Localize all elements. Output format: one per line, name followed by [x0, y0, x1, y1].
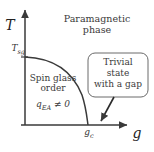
phase-diagram-figure: T g Tsg gc Paramagnetic phase Spin glass…	[0, 0, 154, 152]
spinglass-line2: order	[22, 83, 84, 93]
region-label-paramagnetic: Paramagnetic phase	[47, 14, 147, 35]
order-parameter-label: qEA ≠ 0	[22, 99, 84, 112]
callout-line2: state	[88, 68, 148, 79]
callout-text: Trivial state with a gap	[88, 57, 148, 89]
y-axis-label: T	[2, 18, 18, 34]
qea-sub: EA	[42, 104, 51, 112]
callout-line3: with a gap	[88, 79, 148, 90]
y-tick-label-tsg: Tsg	[1, 43, 25, 56]
region-label-spin-glass: Spin glass order	[22, 73, 84, 93]
callout-line1: Trivial	[88, 57, 148, 68]
paramagnetic-line2: phase	[47, 25, 147, 36]
x-tick-label-gc: gc	[79, 127, 99, 140]
tsg-sub: sg	[18, 48, 26, 56]
qea-rest: ≠ 0	[51, 99, 70, 109]
x-axis-label: g	[129, 126, 145, 142]
callout-pointer-arrow	[101, 97, 114, 121]
spinglass-line1: Spin glass	[22, 73, 84, 83]
gc-sub: c	[90, 132, 94, 140]
